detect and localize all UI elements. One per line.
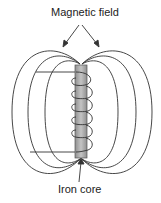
arrow-core-head bbox=[78, 158, 84, 164]
field-line-left-middle bbox=[28, 56, 80, 168]
arrow-left bbox=[65, 25, 79, 44]
field-line-left-outer bbox=[12, 51, 80, 174]
arrow-right bbox=[82, 25, 97, 44]
arrow-core bbox=[79, 162, 81, 182]
magnetic-field-label: Magnetic field bbox=[51, 6, 119, 18]
iron-core-label: Iron core bbox=[58, 183, 101, 195]
field-line-right-inner bbox=[82, 61, 118, 163]
field-line-right-middle bbox=[82, 56, 136, 168]
electromagnet-diagram bbox=[0, 0, 161, 203]
field-line-right-outer bbox=[82, 51, 152, 174]
